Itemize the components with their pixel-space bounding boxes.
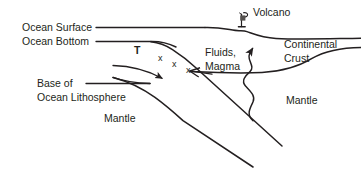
label-continental: Continental	[284, 39, 337, 50]
land-surface-profile	[205, 27, 361, 39]
label-magma: Magma	[205, 61, 240, 72]
magma-conduit-path	[244, 48, 254, 120]
label-mantle-left: Mantle	[104, 113, 136, 124]
label-volcano: Volcano	[253, 7, 290, 18]
label-base-of: Base of	[37, 78, 73, 89]
subduction-zone-diagram: Ocean Surface Ocean Bottom Base of Ocean…	[0, 0, 361, 177]
label-crust: Crust	[284, 53, 309, 64]
label-temperature-marker: T	[134, 45, 140, 56]
slab-motion-arrow	[113, 66, 162, 79]
label-x-mark-2: x	[172, 60, 177, 69]
label-ocean-bottom: Ocean Bottom	[22, 36, 89, 47]
label-x-mark-3: x	[186, 66, 191, 75]
label-ocean-surface: Ocean Surface	[22, 22, 92, 33]
label-ocean-lithosphere: Ocean Lithosphere	[37, 92, 126, 103]
volcano-icon	[238, 13, 247, 27]
label-fluids: Fluids,	[205, 47, 236, 58]
label-x-mark-1: x	[158, 54, 163, 63]
label-mantle-right: Mantle	[286, 95, 318, 106]
